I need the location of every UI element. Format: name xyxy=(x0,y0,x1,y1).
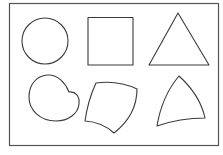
shapes-diagram xyxy=(0,0,223,155)
diagram-frame xyxy=(10,4,219,146)
